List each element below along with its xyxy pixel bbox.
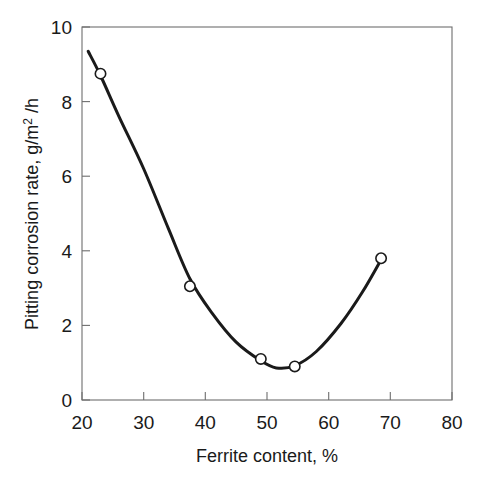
y-tick-label-6: 6 [61,166,72,187]
x-axis-title: Ferrite content, % [196,446,338,466]
y-axis-title-part2: /h [22,98,42,118]
y-tick-label-0: 0 [61,390,72,411]
x-tick-label-30: 30 [133,412,154,433]
y-axis-title: Pitting corrosion rate, g/m2 /h [21,98,42,330]
x-tick-label-40: 40 [195,412,216,433]
y-tick-label-8: 8 [61,92,72,113]
y-tick-marks [82,27,90,400]
pitting-corrosion-chart: 0 2 4 6 8 10 20 30 40 50 60 70 80 Ferrit… [0,0,491,480]
x-tick-label-50: 50 [256,412,277,433]
y-axis-title-part1: Pitting corrosion rate, g/m [22,125,42,330]
data-point-3 [256,354,266,364]
x-tick-label-70: 70 [380,412,401,433]
data-markers [95,68,386,371]
x-tick-marks [82,392,452,400]
data-point-1 [95,68,105,78]
y-tick-label-4: 4 [61,241,72,262]
data-point-2 [185,281,195,291]
x-tick-label-20: 20 [71,412,92,433]
figure-container: 0 2 4 6 8 10 20 30 40 50 60 70 80 Ferrit… [0,0,491,480]
data-point-5 [376,253,386,263]
y-tick-label-2: 2 [61,315,72,336]
y-tick-label-10: 10 [51,17,72,38]
plot-frame [82,27,452,400]
data-curve [88,51,383,368]
x-tick-label-60: 60 [318,412,339,433]
x-tick-label-80: 80 [441,412,462,433]
data-point-4 [290,361,300,371]
y-axis-title-main: Pitting corrosion rate, g/m2 /h [21,98,42,330]
